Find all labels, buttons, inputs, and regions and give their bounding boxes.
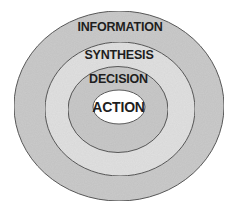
- label-synthesis: SYNTHESIS: [84, 48, 153, 62]
- label-decision: DECISION: [89, 72, 148, 86]
- concentric-diagram-svg: INFORMATION SYNTHESIS DECISION ACTION: [0, 0, 237, 209]
- label-action: ACTION: [92, 99, 145, 115]
- concentric-diagram: INFORMATION SYNTHESIS DECISION ACTION: [0, 0, 237, 209]
- label-information: INFORMATION: [77, 20, 162, 34]
